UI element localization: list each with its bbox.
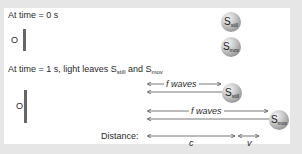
distance-c-label: c bbox=[189, 138, 194, 148]
f-waves-label-mov: f waves bbox=[189, 106, 224, 116]
f-waves-label-still: f waves bbox=[164, 79, 199, 89]
source-still-t1: Sstill bbox=[222, 83, 242, 103]
source-mov-t1: Smov bbox=[269, 110, 289, 130]
distance-label: Distance: bbox=[101, 131, 139, 141]
distance-v-label: v bbox=[247, 138, 252, 148]
arrows-layer bbox=[0, 0, 302, 154]
